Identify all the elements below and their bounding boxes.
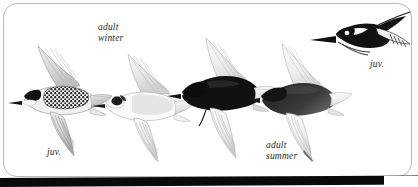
label-adult-winter: adult winter (98, 22, 123, 43)
bottom-band-right-gap (384, 176, 418, 187)
bird-juvenile-upper-right (306, 10, 412, 72)
label-adult-summer: adult summer (266, 140, 297, 161)
illustration-plate: adult winter juv. adult summer juv. (0, 0, 418, 187)
label-juvenile-left: juv. (47, 147, 61, 158)
plate-panel: adult winter juv. adult summer juv. (3, 3, 412, 177)
label-juvenile-right: juv. (370, 59, 384, 70)
bottom-black-band (0, 175, 418, 187)
